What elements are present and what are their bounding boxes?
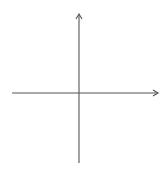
coordinate-plane — [0, 0, 164, 172]
